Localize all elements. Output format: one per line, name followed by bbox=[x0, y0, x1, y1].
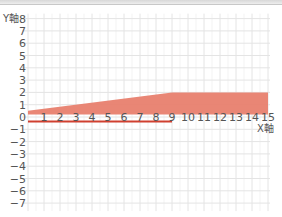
svg-text:4: 4 bbox=[19, 62, 26, 75]
chart: 123456789101112131415876543210−1−2−3−4−5… bbox=[0, 0, 282, 217]
x-axis-label: X軸 bbox=[257, 122, 274, 134]
svg-text:10: 10 bbox=[181, 111, 195, 124]
svg-text:6: 6 bbox=[121, 111, 128, 124]
svg-text:1: 1 bbox=[19, 99, 26, 112]
svg-text:5: 5 bbox=[105, 111, 112, 124]
svg-text:−4: −4 bbox=[10, 160, 26, 173]
svg-text:2: 2 bbox=[57, 111, 64, 124]
svg-text:4: 4 bbox=[89, 111, 96, 124]
svg-text:0: 0 bbox=[19, 111, 26, 124]
svg-text:6: 6 bbox=[19, 37, 26, 50]
svg-text:−3: −3 bbox=[10, 148, 26, 161]
svg-text:11: 11 bbox=[197, 111, 211, 124]
svg-text:5: 5 bbox=[19, 50, 26, 63]
svg-text:8: 8 bbox=[153, 111, 160, 124]
y-axis-label: Y軸 bbox=[2, 12, 19, 24]
svg-text:1: 1 bbox=[41, 111, 48, 124]
svg-text:12: 12 bbox=[213, 111, 227, 124]
svg-text:2: 2 bbox=[19, 86, 26, 99]
svg-text:−7: −7 bbox=[10, 197, 26, 210]
svg-text:7: 7 bbox=[19, 25, 26, 38]
svg-text:13: 13 bbox=[229, 111, 243, 124]
svg-text:7: 7 bbox=[137, 111, 144, 124]
svg-text:8: 8 bbox=[19, 13, 26, 26]
svg-text:3: 3 bbox=[73, 111, 80, 124]
svg-text:−5: −5 bbox=[10, 173, 26, 186]
svg-text:−2: −2 bbox=[10, 136, 26, 149]
svg-text:3: 3 bbox=[19, 74, 26, 87]
svg-text:−1: −1 bbox=[10, 123, 26, 136]
svg-text:−6: −6 bbox=[10, 185, 26, 198]
svg-text:9: 9 bbox=[169, 111, 176, 124]
